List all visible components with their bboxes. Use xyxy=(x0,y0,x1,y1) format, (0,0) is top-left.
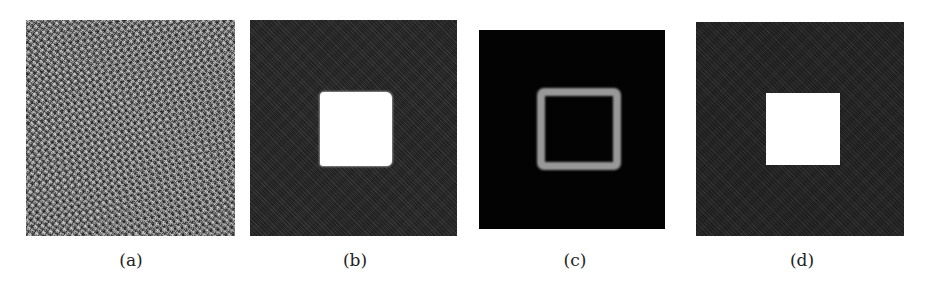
caption-a: (a) xyxy=(91,250,171,270)
caption-b: (b) xyxy=(315,250,395,270)
panel-c-edge-image xyxy=(479,30,665,229)
white-square xyxy=(766,93,840,165)
panel-b-segmented-image xyxy=(250,20,457,236)
bright-square-region xyxy=(320,92,392,166)
panel-a-noise-image xyxy=(26,20,235,236)
panel-d-ground-truth-image xyxy=(696,22,904,236)
caption-c: (c) xyxy=(535,250,615,270)
caption-d: (d) xyxy=(762,250,842,270)
square-outline-ring xyxy=(537,88,621,170)
